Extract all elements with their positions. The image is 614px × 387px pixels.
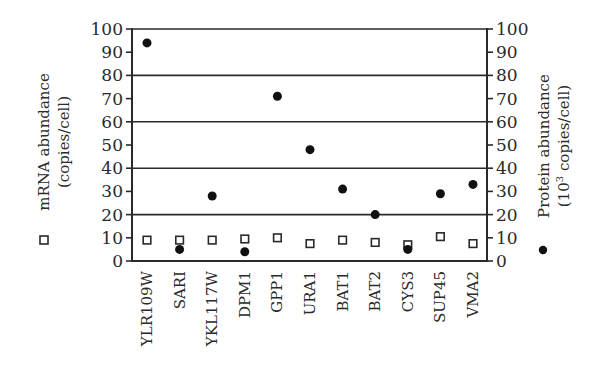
category-label: BAT1 [334, 271, 352, 312]
protein-point [436, 189, 445, 198]
protein-point [338, 185, 347, 194]
right-tick-label: 90 [496, 42, 518, 62]
right-tick-label: 0 [496, 251, 507, 271]
protein-point [469, 180, 478, 189]
right-tick-label: 80 [496, 65, 518, 85]
mrna-point [371, 239, 379, 247]
right-axis-title-line1: Protein abundance [535, 74, 553, 218]
category-label: BAT2 [366, 271, 384, 312]
mrna-series [143, 233, 477, 249]
right-tick-label: 30 [496, 181, 518, 201]
protein-point [371, 210, 380, 219]
protein-legend-dot-icon [539, 246, 547, 254]
right-tick-label: 60 [496, 112, 518, 132]
right-axis-ticks: 0102030405060708090100 [487, 19, 528, 271]
category-label: CYS3 [399, 271, 417, 312]
left-tick-label: 30 [101, 181, 123, 201]
mrna-point [143, 236, 151, 244]
left-tick-label: 100 [91, 19, 123, 39]
category-label: DPM1 [236, 271, 254, 318]
category-label: URA1 [301, 271, 319, 315]
left-tick-label: 60 [101, 112, 123, 132]
scatter-chart: 0102030405060708090100 01020304050607080… [0, 0, 614, 387]
left-tick-label: 90 [101, 42, 123, 62]
left-tick-label: 20 [101, 205, 123, 225]
protein-point [175, 245, 184, 254]
gridlines [132, 29, 487, 215]
right-tick-label: 100 [496, 19, 528, 39]
protein-point [403, 245, 412, 254]
mrna-point [274, 234, 282, 242]
left-tick-label: 70 [101, 89, 123, 109]
category-label: SARI [171, 271, 189, 309]
axes [131, 28, 488, 262]
mrna-legend-square-icon [40, 236, 48, 244]
category-label: VMA2 [464, 271, 482, 319]
mrna-point [339, 236, 347, 244]
right-tick-label: 40 [496, 158, 518, 178]
left-axis-ticks: 0102030405060708090100 [91, 19, 132, 271]
left-tick-label: 40 [101, 158, 123, 178]
protein-point [143, 38, 152, 47]
left-tick-label: 80 [101, 65, 123, 85]
category-labels: YLR109WSARIYKL117WDPM1GPP1URA1BAT1BAT2CY… [138, 270, 482, 347]
category-label: YLR109W [138, 270, 156, 347]
category-label: YKL117W [203, 270, 221, 347]
right-tick-label: 50 [496, 135, 518, 155]
mrna-point [437, 233, 445, 241]
left-tick-label: 10 [101, 228, 123, 248]
category-label: SUP45 [431, 271, 449, 323]
right-axis-title: Protein abundance (103 copies/cell) [535, 74, 573, 254]
protein-point [306, 145, 315, 154]
mrna-point [176, 236, 184, 244]
protein-point [240, 247, 249, 256]
protein-series [143, 38, 478, 256]
mrna-point [241, 235, 249, 243]
left-axis-title-line1: mRNA abundance [35, 73, 53, 211]
left-axis-title-line2: (copies/cell) [55, 96, 73, 188]
mrna-point [208, 236, 216, 244]
protein-point [208, 192, 217, 201]
right-tick-label: 70 [496, 89, 518, 109]
left-axis-title: mRNA abundance (copies/cell) [35, 73, 73, 244]
protein-point [273, 92, 282, 101]
mrna-point [469, 240, 477, 248]
left-tick-label: 0 [112, 251, 123, 271]
category-label: GPP1 [268, 271, 286, 313]
right-tick-label: 10 [496, 228, 518, 248]
right-tick-label: 20 [496, 205, 518, 225]
left-tick-label: 50 [101, 135, 123, 155]
mrna-point [306, 240, 314, 248]
right-axis-title-line2: (103 copies/cell) [554, 85, 573, 207]
